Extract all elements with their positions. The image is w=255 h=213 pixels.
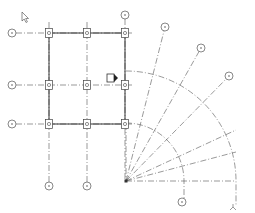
- grid-bubble-R1[interactable]: [161, 23, 169, 31]
- grid-bubble-3[interactable]: [121, 11, 129, 19]
- arc-grid-arc-inner[interactable]: [126, 123, 184, 198]
- mouse-pointer-icon: [22, 12, 29, 23]
- drawing-canvas[interactable]: [0, 0, 255, 213]
- grid-lines: [16, 19, 133, 182]
- grid-bubble-arc-inner[interactable]: [178, 198, 186, 206]
- column-4[interactable]: [46, 81, 53, 90]
- radial-grid-R2[interactable]: [126, 51, 199, 181]
- grid-bubble-R2[interactable]: [197, 44, 205, 52]
- grid-bubble-C[interactable]: [8, 29, 16, 37]
- section-arrow-icon: [114, 74, 118, 82]
- grid-bubble-2[interactable]: [83, 182, 91, 190]
- column-3[interactable]: [122, 29, 129, 38]
- section-head-icon[interactable]: [107, 74, 114, 82]
- grid-bubble-A[interactable]: [8, 120, 16, 128]
- radial-grid-R5[interactable]: [126, 152, 236, 181]
- radial-grid-R1[interactable]: [126, 31, 164, 181]
- grid-bubble-B[interactable]: [8, 81, 16, 89]
- column-8[interactable]: [84, 120, 91, 129]
- column-2[interactable]: [84, 29, 91, 38]
- grid-bubble-R3[interactable]: [225, 72, 233, 80]
- column-1[interactable]: [46, 29, 53, 38]
- grid-bubble-1[interactable]: [45, 182, 53, 190]
- section-marker[interactable]: [107, 74, 118, 82]
- radial-grid-R4[interactable]: [126, 130, 236, 181]
- radial-grid: [125, 31, 237, 210]
- column-5[interactable]: [84, 81, 91, 90]
- radial-center-point[interactable]: [125, 180, 128, 183]
- arc-grid-arc-outer[interactable]: [126, 71, 236, 206]
- arc-end-marker: [230, 204, 236, 210]
- grid-bubbles: [8, 11, 233, 206]
- column-9[interactable]: [122, 120, 129, 129]
- column-6[interactable]: [122, 81, 129, 90]
- radial-grid-R3[interactable]: [126, 79, 226, 181]
- column-7[interactable]: [46, 120, 53, 129]
